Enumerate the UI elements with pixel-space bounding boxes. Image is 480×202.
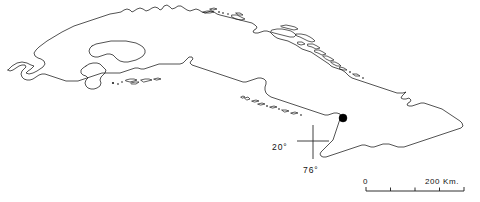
scalebar-graphic [366, 187, 464, 191]
locality-marker[interactable] [339, 114, 347, 122]
latitude-label: 20° [272, 143, 288, 152]
canarreos-cays [112, 78, 161, 85]
northeast-cays [271, 25, 364, 79]
cuba-outline-map-figure: 20° 76° 0 200 Km. [0, 0, 480, 202]
western-inner-coast-detail [89, 41, 145, 62]
scalebar-min-label: 0 [363, 178, 368, 186]
scalebar-max-label: 200 Km. [425, 178, 459, 186]
graticule-crosshair [297, 125, 329, 159]
sabana-camaguey-cays [203, 8, 245, 20]
cuba-mainland-coastline [8, 5, 463, 157]
longitude-label: 76° [303, 166, 319, 175]
map-svg-canvas [0, 0, 480, 202]
jardines-de-la-reina-cays [241, 96, 302, 116]
